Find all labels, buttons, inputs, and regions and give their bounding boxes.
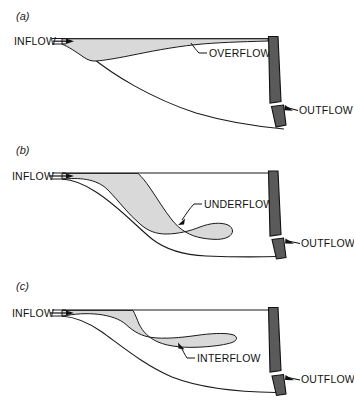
outflow-gate: [272, 238, 286, 259]
outflow-arrow-icon: [285, 375, 300, 380]
inflow-label: INFLOW: [14, 35, 56, 47]
inflow-label: INFLOW: [12, 307, 54, 319]
panel-underflow: (b) INFLOW UNDERFLOW: [0, 134, 354, 268]
reservoir-flow-figure: (a) INFLOW OVERFLOW: [0, 0, 354, 402]
inflow-label: INFLOW: [12, 170, 54, 182]
interflow-plume: [62, 310, 237, 347]
dam-structure: [269, 37, 282, 104]
underflow-leader-line: [182, 204, 202, 220]
outflow-label: OUTFLOW: [299, 104, 353, 116]
panel-overflow: (a) INFLOW OVERFLOW: [0, 0, 354, 134]
underflow-label: UNDERFLOW: [204, 198, 273, 210]
outflow-gate: [272, 105, 287, 127]
dam-structure: [269, 308, 282, 373]
dam-structure: [269, 171, 282, 236]
outflow-label: OUTFLOW: [301, 373, 354, 385]
outflow-label: OUTFLOW: [301, 237, 354, 249]
outflow-arrow-icon: [284, 105, 298, 111]
overflow-label: OVERFLOW: [209, 47, 271, 59]
interflow-label: INTERFLOW: [197, 352, 261, 364]
underflow-arrow-icon: [178, 219, 185, 226]
outflow-arrow-icon: [285, 239, 300, 244]
panel-interflow: (c) INFLOW INTERFLOW: [0, 268, 354, 402]
